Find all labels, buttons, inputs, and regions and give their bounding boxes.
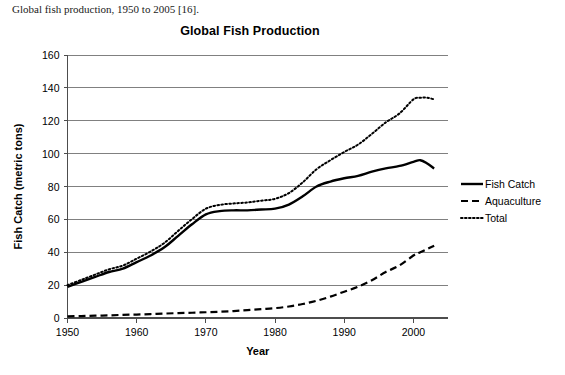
x-tick-label: 2000 bbox=[402, 326, 426, 338]
chart-plot-area: 0204060801001201401601950196019701980199… bbox=[0, 0, 565, 375]
y-tick-label: 140 bbox=[42, 82, 60, 94]
series-line-aquaculture bbox=[68, 246, 435, 317]
y-tick-label: 60 bbox=[48, 213, 60, 225]
legend-label-fish-catch: Fish Catch bbox=[485, 178, 535, 190]
legend-label-aquaculture: Aquaculture bbox=[485, 195, 541, 207]
y-tick-label: 40 bbox=[48, 246, 60, 258]
y-tick-label: 100 bbox=[42, 148, 60, 160]
chart-figure: Global Fish Production 02040608010012014… bbox=[0, 0, 565, 375]
x-tick-label: 1950 bbox=[56, 326, 80, 338]
x-tick-label: 1970 bbox=[194, 326, 218, 338]
y-tick-label: 20 bbox=[48, 279, 60, 291]
y-tick-label: 0 bbox=[54, 312, 60, 324]
y-axis-title: Fish Catch (metric tons) bbox=[12, 123, 24, 249]
y-tick-label: 160 bbox=[42, 49, 60, 61]
legend-label-total: Total bbox=[485, 212, 507, 224]
x-axis-title: Year bbox=[246, 345, 270, 357]
x-tick-label: 1980 bbox=[263, 326, 287, 338]
series-line-fish-catch bbox=[68, 160, 435, 287]
x-tick-label: 1960 bbox=[125, 326, 149, 338]
y-tick-label: 80 bbox=[48, 181, 60, 193]
y-tick-label: 120 bbox=[42, 115, 60, 127]
x-tick-label: 1990 bbox=[333, 326, 357, 338]
series-line-total bbox=[68, 98, 435, 286]
